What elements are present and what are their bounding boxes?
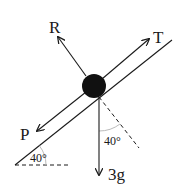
- label-weight: 3g: [108, 165, 126, 184]
- force-R-arrow: [58, 37, 86, 76]
- diagram-canvas: R T P 3g 40° 40°: [0, 0, 183, 186]
- force-T-arrow: [102, 39, 149, 79]
- label-T: T: [153, 28, 164, 47]
- label-P: P: [20, 125, 29, 144]
- weight-angle-arc: [99, 124, 120, 131]
- label-incline-angle: 40°: [30, 151, 47, 165]
- incline-line: [15, 40, 172, 165]
- label-R: R: [49, 18, 61, 37]
- label-weight-angle: 40°: [104, 134, 121, 148]
- force-P-arrow: [37, 92, 86, 131]
- force-diagram: R T P 3g 40° 40°: [0, 0, 183, 186]
- particle-ball: [82, 74, 106, 98]
